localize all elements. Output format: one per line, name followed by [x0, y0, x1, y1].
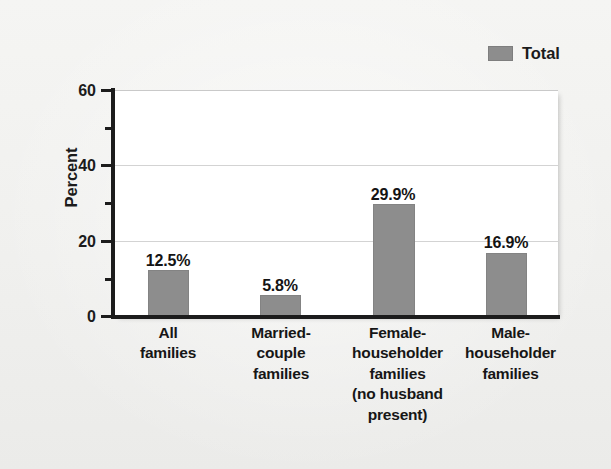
y-tick-20: [101, 240, 114, 243]
y-tick-minor-30: [105, 202, 114, 205]
plot-area: [114, 90, 558, 317]
chart-figure: Total 60 40 20 0 Percent 12.5% 5.8% 29.9…: [0, 0, 611, 469]
category-line: Married-: [226, 323, 336, 343]
legend-label-total: Total: [522, 44, 560, 63]
category-label-all-families: All families: [113, 323, 223, 364]
gridline-40: [114, 165, 558, 166]
bar-all-families: [148, 270, 189, 317]
bar-value-male-householder-families: 16.9%: [456, 234, 556, 252]
y-tick-label-0: 0: [56, 308, 96, 326]
category-line: householder: [443, 343, 578, 363]
category-line: families: [226, 364, 336, 384]
category-line: couple: [226, 343, 336, 363]
category-line: (no husband: [330, 384, 465, 404]
y-tick-minor-10: [105, 278, 114, 281]
bar-value-married-couple-families: 5.8%: [230, 277, 330, 295]
category-line: families: [443, 364, 578, 384]
category-label-married-couple-families: Married- couple families: [226, 323, 336, 384]
y-tick-minor-50: [105, 127, 114, 130]
category-line: All: [113, 323, 223, 343]
category-line: present): [330, 405, 465, 425]
x-axis-line: [111, 315, 560, 319]
y-axis-tick-labels: 60 40 20 0: [50, 0, 96, 469]
legend-swatch-total: [488, 46, 513, 61]
bar-married-couple-families: [260, 295, 301, 317]
y-tick-40: [101, 164, 114, 167]
y-axis-title: Percent: [62, 133, 81, 223]
bar-male-householder-families: [486, 253, 527, 317]
y-tick-label-60: 60: [56, 82, 96, 100]
plot-top-rule: [114, 90, 558, 91]
category-line: families: [113, 343, 223, 363]
y-tick-label-20: 20: [56, 233, 96, 251]
bar-female-householder-families: [373, 204, 415, 317]
bar-value-all-families: 12.5%: [118, 252, 218, 270]
y-tick-0: [101, 315, 114, 318]
chart-legend: Total: [488, 44, 560, 63]
category-label-male-householder-families: Male- householder families: [443, 323, 578, 384]
category-line: Male-: [443, 323, 578, 343]
bar-value-female-householder-families: 29.9%: [343, 186, 443, 204]
y-tick-60: [101, 89, 114, 92]
